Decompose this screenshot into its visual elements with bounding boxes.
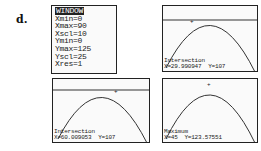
window-settings-screen: WINDOW Xmin=0 Xmax=90 Xscl=10 Ymin=0 Yma… xyxy=(51,5,117,74)
trace-cursor-icon: + xyxy=(207,81,211,88)
problem-label: d. xyxy=(16,13,28,26)
caption-line2: X=60.009053 Y=107 xyxy=(54,135,115,141)
caption-line2: X=45 Y=123.57551 xyxy=(164,135,222,141)
graph-screen-intersection-1: + Intersection X=29.990947 Y=107 xyxy=(162,5,258,72)
caption-line2: X=29.990947 Y=107 xyxy=(164,64,225,70)
graph-screen-intersection-2: + Intersection X=60.009053 Y=107 xyxy=(52,78,150,143)
graph-screen-maximum: + Maximum X=45 Y=123.57551 xyxy=(162,78,258,143)
trace-cursor-icon: + xyxy=(190,18,194,25)
trace-cursor-icon: + xyxy=(114,88,118,95)
xres-setting: Xres=1 xyxy=(55,60,113,68)
